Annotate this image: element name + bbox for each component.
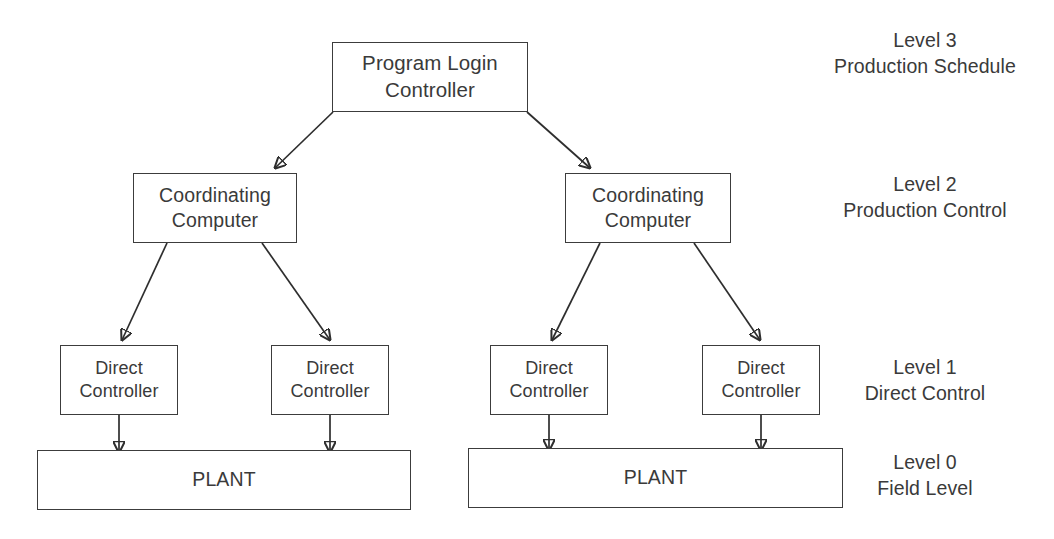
node-coordinating-computer-left[interactable]: Coordinating Computer <box>133 173 297 243</box>
node-plant-right[interactable]: PLANT <box>468 448 843 508</box>
node-coordinating-computer-left-label: Coordinating Computer <box>159 183 271 234</box>
level-label-0: Level 0 Field Level <box>820 450 1030 501</box>
node-direct-controller-1-label: Direct Controller <box>79 357 158 404</box>
node-plant-left[interactable]: PLANT <box>37 450 411 510</box>
node-plant-left-label: PLANT <box>192 467 255 492</box>
node-direct-controller-3[interactable]: Direct Controller <box>490 345 608 415</box>
node-program-login-controller[interactable]: Program Login Controller <box>332 42 528 112</box>
node-coordinating-computer-right-label: Coordinating Computer <box>592 183 704 234</box>
node-coordinating-computer-right[interactable]: Coordinating Computer <box>565 173 731 243</box>
node-direct-controller-1[interactable]: Direct Controller <box>60 345 178 415</box>
edge-coord-left-to-dc1 <box>122 243 167 340</box>
edge-coord-left-to-dc2 <box>262 243 330 340</box>
node-direct-controller-4-label: Direct Controller <box>721 357 800 404</box>
node-direct-controller-2-label: Direct Controller <box>290 357 369 404</box>
node-direct-controller-3-label: Direct Controller <box>509 357 588 404</box>
edge-coord-right-to-dc3 <box>552 243 600 340</box>
edge-top-to-coord-right <box>527 112 590 168</box>
node-direct-controller-4[interactable]: Direct Controller <box>702 345 820 415</box>
level-label-3: Level 3 Production Schedule <box>820 28 1030 79</box>
node-plant-right-label: PLANT <box>624 465 687 490</box>
edge-top-to-coord-left <box>275 112 333 168</box>
edge-coord-right-to-dc4 <box>694 243 760 340</box>
level-label-1: Level 1 Direct Control <box>820 355 1030 406</box>
node-program-login-controller-label: Program Login Controller <box>362 50 498 103</box>
node-direct-controller-2[interactable]: Direct Controller <box>271 345 389 415</box>
diagram-canvas: Program Login Controller Coordinating Co… <box>0 0 1054 539</box>
level-label-2: Level 2 Production Control <box>820 172 1030 223</box>
